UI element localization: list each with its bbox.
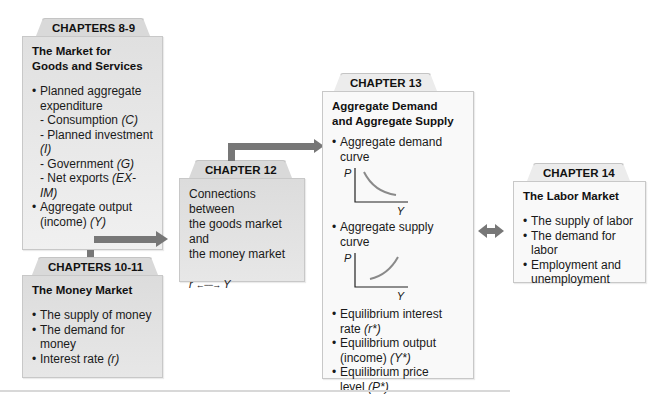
labor-market-list: The supply of labor The demand for labor…: [523, 214, 636, 287]
supply-curve-icon: [354, 253, 412, 289]
ad-as-list-2: Aggregate supply curve: [332, 220, 464, 249]
list-item: - Consumption (C): [32, 113, 153, 128]
list-item: Equilibrium interestrate (r*): [332, 307, 464, 336]
ad-as-title: Aggregate Demand and Aggregate Supply: [332, 99, 464, 129]
money-market-box: The Money Market The supply of money The…: [22, 275, 163, 378]
connections-box: Connections between the goods market and…: [179, 178, 305, 282]
list-item: - Government (G): [32, 157, 153, 172]
list-item: - Net exports (EX-IM): [32, 171, 153, 200]
tab-chapter-12: CHAPTER 12: [195, 160, 286, 178]
money-market-title: The Money Market: [32, 283, 153, 298]
list-item: - Planned investment (I): [32, 128, 153, 157]
list-item: Employment andunemployment: [523, 258, 636, 287]
aggregate-demand-graph: P Y: [344, 166, 414, 206]
list-item: Aggregate demand curve: [332, 135, 464, 164]
list-item: The demand for money: [32, 323, 153, 352]
ad-as-box: Aggregate Demand and Aggregate Supply Ag…: [322, 91, 474, 379]
goods-market-box: The Market for Goods and Services Planne…: [22, 36, 163, 250]
r-y-relation: r ←−−→ Y: [189, 277, 295, 293]
demand-curve-icon: [354, 168, 412, 204]
connections-text: Connections between the goods market and…: [189, 187, 295, 262]
labor-market-box: The Labor Market The supply of labor The…: [513, 181, 646, 283]
list-item: Equilibrium output(income) (Y*): [332, 336, 464, 365]
goods-market-list: Planned aggregateexpenditure - Consumpti…: [32, 84, 153, 229]
arrow-to-chapter-13: [228, 143, 316, 150]
arrow-head-right-icon: [156, 231, 168, 247]
tab-chapter-14: CHAPTER 14: [533, 163, 624, 181]
goods-market-title: The Market for Goods and Services: [32, 44, 153, 74]
list-item: The supply of labor: [523, 214, 636, 229]
double-arrow-right-icon: [495, 224, 504, 238]
ad-as-list-3: Equilibrium interestrate (r*) Equilibriu…: [332, 307, 464, 394]
tab-chapter-13: CHAPTER 13: [340, 73, 431, 91]
bottom-divider: [0, 390, 510, 392]
aggregate-supply-graph: P Y: [344, 251, 414, 291]
list-item: Aggregate supply curve: [332, 220, 464, 249]
list-item: Planned aggregateexpenditure: [32, 84, 153, 113]
tab-chapters-8-9: CHAPTERS 8-9: [42, 18, 144, 36]
arrow-to-chapter-12: [94, 236, 158, 243]
tab-chapters-10-11: CHAPTERS 10-11: [38, 257, 152, 275]
labor-market-title: The Labor Market: [523, 189, 636, 204]
list-item: Aggregate output(income) (Y): [32, 200, 153, 229]
money-market-list: The supply of money The demand for money…: [32, 308, 153, 366]
list-item: The demand for labor: [523, 229, 636, 258]
list-item: Interest rate (r): [32, 352, 153, 367]
double-arrow-icon: ←−−→: [196, 280, 221, 290]
ad-as-list: Aggregate demand curve: [332, 135, 464, 164]
list-item: The supply of money: [32, 308, 153, 323]
